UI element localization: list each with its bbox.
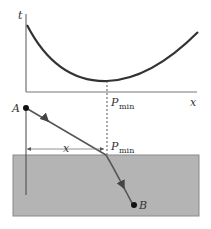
fermat-principle-diagram: t x P min A B x P min xyxy=(0,0,211,229)
pmin-sub-interface: min xyxy=(119,146,134,155)
dim-arrow-right xyxy=(100,147,104,151)
pmin-label-graph: P xyxy=(110,96,119,109)
pmin-label-interface: P xyxy=(110,140,119,153)
x-axis-label: x xyxy=(190,96,197,109)
y-axis-label: t xyxy=(18,9,23,22)
refraction-geometry: A B x P min xyxy=(11,102,199,216)
second-medium xyxy=(13,155,199,216)
time-vs-position-graph: t x P min xyxy=(18,9,198,155)
ray-arrow-1 xyxy=(45,118,48,121)
pmin-sub-graph: min xyxy=(119,102,134,111)
distance-x-label: x xyxy=(63,142,70,155)
point-a xyxy=(23,105,29,111)
point-b-label: B xyxy=(138,199,147,212)
point-a-label: A xyxy=(11,102,20,115)
dim-arrow-left xyxy=(27,147,31,151)
time-curve xyxy=(27,25,198,81)
point-b xyxy=(131,202,137,208)
